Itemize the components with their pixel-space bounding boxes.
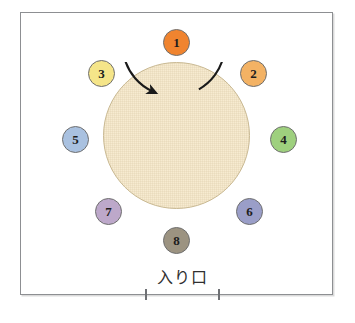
- station-label-6: 6: [246, 205, 253, 218]
- station-marker-6[interactable]: 6: [236, 198, 263, 225]
- entrance-tick-left: [145, 289, 147, 300]
- station-marker-2[interactable]: 2: [240, 60, 267, 87]
- station-label-8: 8: [173, 234, 180, 247]
- station-marker-8[interactable]: 8: [163, 227, 190, 254]
- station-marker-4[interactable]: 4: [270, 126, 297, 153]
- station-label-2: 2: [250, 67, 257, 80]
- station-label-7: 7: [105, 205, 112, 218]
- diagram-canvas: 1 2 3 4 5 6 7 8 入り口: [0, 0, 355, 323]
- station-marker-7[interactable]: 7: [95, 198, 122, 225]
- counterclockwise-rotation-arrow: [103, 62, 250, 209]
- station-label-1: 1: [173, 36, 180, 49]
- station-label-4: 4: [280, 133, 287, 146]
- station-marker-3[interactable]: 3: [88, 60, 115, 87]
- station-marker-5[interactable]: 5: [62, 126, 89, 153]
- entrance-tick-right: [218, 289, 220, 300]
- station-label-5: 5: [72, 133, 79, 146]
- entrance-label: 入り口: [136, 264, 228, 288]
- station-label-3: 3: [98, 67, 105, 80]
- station-marker-1[interactable]: 1: [163, 29, 190, 56]
